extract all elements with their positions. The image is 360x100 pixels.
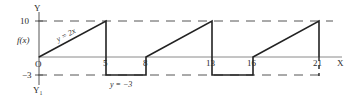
y-prime-axis-label: Y₁: [33, 85, 43, 95]
origin-label: O: [35, 59, 42, 69]
periodic-function-diagram: Y 10 f(x) O −3 Y₁ y = 2x y = −3 5 8 13 1…: [0, 0, 360, 100]
x-tick-label-16: 16: [247, 58, 257, 68]
x-tick-label-5: 5: [103, 58, 108, 68]
y-tick-label-neg3: −3: [22, 70, 32, 80]
ramp-annotation: y = 2x: [54, 26, 78, 44]
x-tick-label-8: 8: [143, 58, 148, 68]
y-axis-label: Y: [34, 3, 41, 13]
x-tick-label-13: 13: [206, 58, 216, 68]
flat-annotation: y = −3: [109, 80, 132, 89]
x-axis-label: X: [337, 58, 344, 68]
diagram-canvas: Y 10 f(x) O −3 Y₁ y = 2x y = −3 5 8 13 1…: [0, 0, 360, 100]
function-label: f(x): [17, 35, 30, 45]
x-tick-label-21: 21: [313, 58, 322, 68]
function-curve: [39, 21, 319, 75]
y-tick-label-10: 10: [20, 16, 30, 26]
